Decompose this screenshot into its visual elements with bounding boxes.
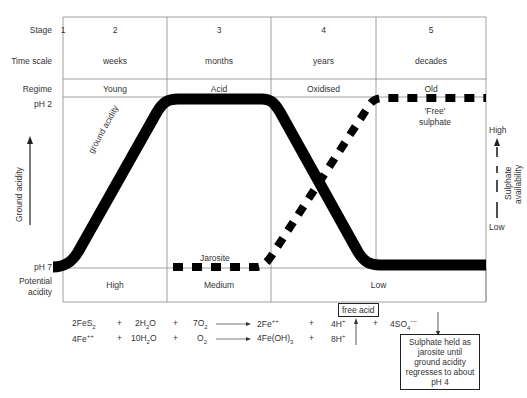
regime-young: Young: [63, 84, 167, 94]
time-scale-decades: decades: [376, 56, 486, 66]
eq1-term-a: 2FeS2: [72, 318, 96, 330]
sulphate-axis-label-1: Sulphate: [503, 166, 513, 200]
time-scale-years: years: [271, 56, 376, 66]
stage-3: 3: [167, 25, 271, 35]
sulphate-low-label: Low: [489, 222, 505, 232]
potential-acidity-label-2: acidity: [0, 287, 52, 297]
stage-2: 2: [63, 25, 167, 35]
eq2-plus: +: [173, 333, 178, 343]
eq1-term-d: 2Fe++: [257, 318, 279, 329]
eq1-term-e: 4H+: [331, 318, 345, 329]
time-scale-weeks: weeks: [63, 56, 167, 66]
eq2-term-a: 4Fe++: [72, 333, 94, 344]
note-line: pH 4: [403, 377, 477, 387]
reaction-arrow-icon: [216, 337, 251, 341]
potential-acidity-label-1: Potential: [0, 276, 52, 286]
free-sulphate-label-1: 'Free': [400, 106, 470, 116]
eq2-term-d: 4Fe(OH)3: [257, 333, 293, 345]
eq1-plus: +: [117, 318, 122, 328]
sulphate-axis-label-2: availability: [513, 165, 523, 204]
eq2-plus: +: [309, 333, 314, 343]
free-acid-arrow-icon: [354, 318, 358, 345]
sulphate-arrow-head-icon: [494, 138, 500, 146]
jarosite-label: Jarosite: [200, 253, 230, 263]
eq1-term-c: 7O2: [193, 318, 208, 330]
regime-acid: Acid: [167, 84, 271, 94]
eq1-term-b: 2H2O: [135, 318, 156, 330]
eq2-term-e: 8H+: [331, 333, 345, 344]
potential-low: Low: [271, 280, 486, 290]
ph2-label: pH 2: [0, 99, 52, 109]
time-scale-months: months: [167, 56, 271, 66]
free-sulphate-label-2: sulphate: [400, 117, 470, 127]
eq1-plus: +: [309, 318, 314, 328]
sulphate-high-label: High: [489, 125, 506, 135]
eq2-plus: +: [117, 333, 122, 343]
eq1-plus: +: [173, 318, 178, 328]
stage-4: 4: [271, 25, 376, 35]
eq1-plus: +: [373, 318, 378, 328]
regime-row-label: Regime: [0, 84, 52, 94]
reaction-arrow-icon: [216, 322, 251, 326]
sulphate-note-box: Sulphate held as jarosite until ground a…: [400, 334, 480, 390]
note-line: jarosite until: [403, 347, 477, 357]
regime-old: Old: [376, 84, 486, 94]
eq2-term-c: O2: [197, 333, 207, 345]
free-acid-box: free acid: [338, 303, 379, 317]
ground-acidity-arrow-icon: [27, 136, 33, 225]
eq2-term-b: 10H2O: [131, 333, 157, 345]
eq1-term-f: 4SO4−−: [390, 318, 417, 331]
stage-5: 5: [376, 25, 486, 35]
potential-high: High: [63, 280, 167, 290]
note-line: ground acidity: [403, 357, 477, 367]
time-scale-row-label: Time scale: [0, 56, 52, 66]
stage-row-label: Stage: [0, 25, 52, 35]
note-line: regresses to about: [403, 367, 477, 377]
ph7-label: pH 7: [0, 262, 52, 272]
note-line: Sulphate held as: [403, 337, 477, 347]
regime-oxidised: Oxidised: [271, 84, 376, 94]
ground-acidity-axis-label: Ground acidity: [14, 167, 24, 222]
potential-medium: Medium: [167, 280, 271, 290]
